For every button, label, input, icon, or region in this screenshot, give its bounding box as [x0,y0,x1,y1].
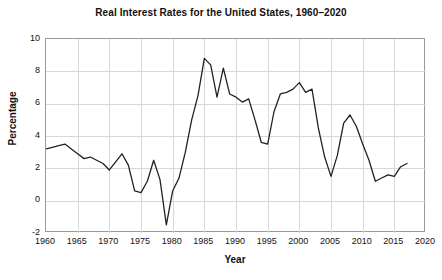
data-series-line [46,58,407,225]
chart-title: Real Interest Rates for the United State… [0,7,442,18]
x-axis-tick-label: 2020 [405,236,442,246]
y-axis-tick-label: 0 [2,195,40,204]
x-axis-label: Year [45,254,425,265]
y-axis-tick-label: 2 [2,163,40,172]
y-axis-tick-label: 10 [2,34,40,43]
x-axis-tick-labels: 1960196519701975198019851990199520002005… [45,236,425,250]
chart-figure: Real Interest Rates for the United State… [0,0,442,280]
chart-plot-svg [46,39,426,233]
y-axis-tick-label: 6 [2,98,40,107]
y-axis-tick-label: 4 [2,131,40,140]
gridlines [46,39,426,233]
y-axis-tick-labels: 1086420-2 [0,38,40,232]
y-axis-tick-label: 8 [2,66,40,75]
plot-area [45,38,425,232]
